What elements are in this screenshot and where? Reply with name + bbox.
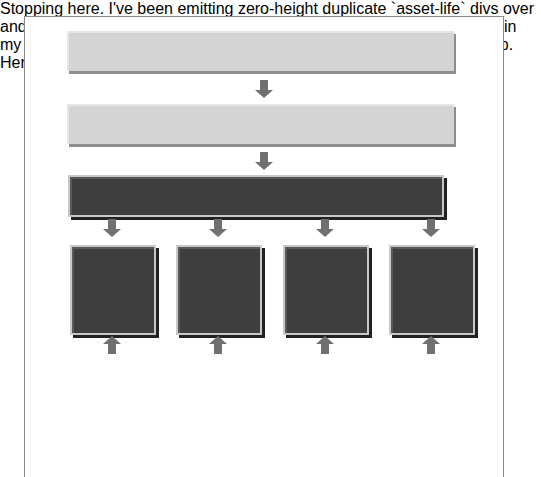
depreciable-amount-box: [70, 177, 442, 215]
year-1-box: [72, 247, 154, 333]
cost-box: [67, 31, 454, 71]
year-3-box: [285, 247, 367, 333]
residual-box: [67, 104, 454, 144]
year-4-box: [391, 247, 473, 333]
year-2-box: [178, 247, 260, 333]
